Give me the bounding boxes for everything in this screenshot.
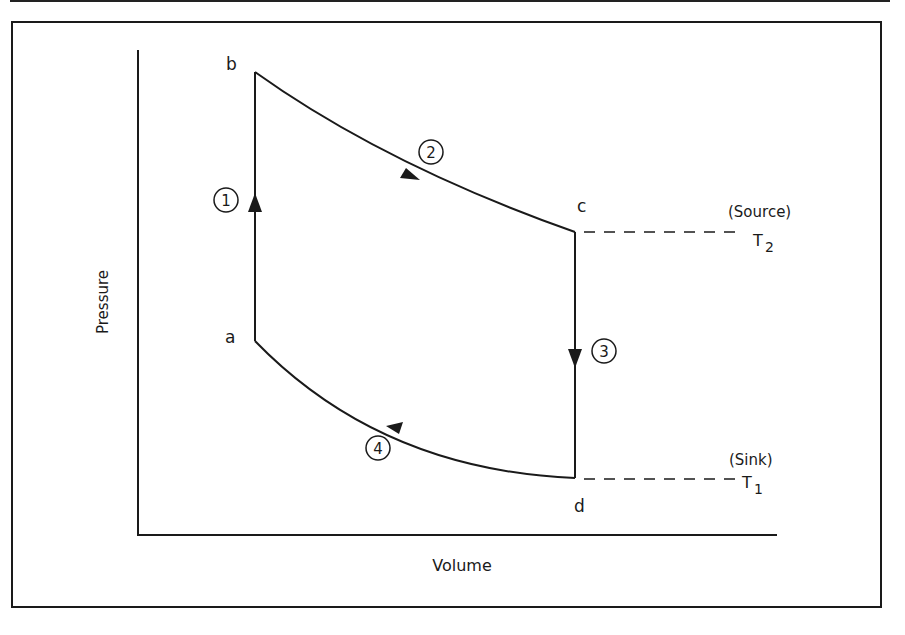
source-temp-label: T 2 (752, 231, 774, 255)
process-2-arrow-icon (400, 168, 420, 180)
state-label-d: d (574, 496, 585, 516)
svg-text:1: 1 (754, 481, 763, 497)
sink-temp-label: T 1 (741, 473, 763, 497)
process-1-badge: 1 (214, 188, 238, 212)
process-2-badge: 2 (419, 140, 443, 164)
pv-diagram: Pressure Volume b c a d 1 2 3 4 (Source) (0, 0, 905, 635)
process-4-curve (255, 341, 575, 478)
y-axis-label: Pressure (94, 270, 112, 334)
process-1-arrow-icon (248, 193, 262, 212)
process-3-badge: 3 (592, 339, 616, 363)
state-label-b: b (226, 54, 237, 74)
source-label: (Source) (728, 203, 791, 221)
svg-text:4: 4 (373, 440, 383, 458)
axes (137, 50, 777, 535)
svg-text:2: 2 (765, 239, 774, 255)
state-label-a: a (225, 327, 235, 347)
process-4-arrow-icon (386, 422, 403, 434)
sink-label: (Sink) (729, 451, 773, 469)
svg-text:T: T (741, 473, 752, 492)
process-3-arrow-icon (568, 349, 582, 368)
process-2-curve (255, 72, 575, 232)
process-4-badge: 4 (366, 436, 390, 460)
cycle (255, 72, 575, 478)
svg-text:2: 2 (426, 144, 436, 162)
x-axis-label: Volume (432, 556, 492, 575)
state-label-c: c (577, 196, 586, 216)
svg-text:T: T (752, 231, 763, 250)
svg-text:3: 3 (599, 343, 609, 361)
svg-text:1: 1 (221, 192, 231, 210)
